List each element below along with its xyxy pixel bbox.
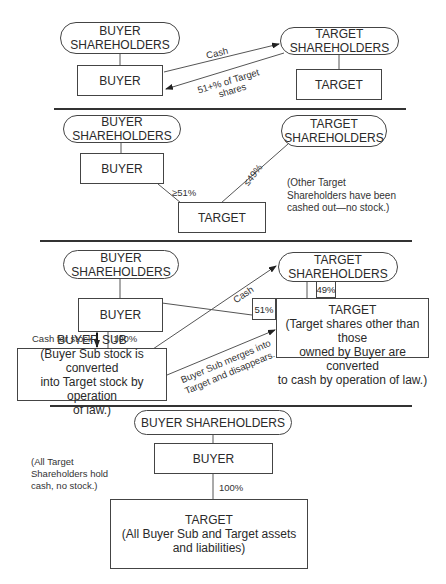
node-label: BUYER [99,74,140,88]
node-label: TARGET [198,211,246,225]
buyer-node: BUYER [77,65,163,96]
target-node: TARGET [296,69,382,100]
target-node: TARGET (All Buyer Sub and Target assets … [110,499,308,569]
node-label: TARGET [185,513,233,527]
node-label: BUYER [193,452,234,466]
node-label: SHAREHOLDERS [71,265,170,279]
panel-divider [50,405,412,407]
node-label: TARGET [329,303,377,317]
node-label: (Target shares other than those [277,317,428,345]
node-label: TARGET [314,253,362,267]
buyer-node: BUYER [78,298,163,332]
note-line: cash, no stock.) [31,480,108,492]
note-line: (All Target [31,456,108,468]
buyer-node: BUYER [80,153,164,184]
node-label: BUYER [99,24,140,38]
node-label: (All Buyer Sub and Target assets [122,527,297,541]
stake-label: 51% [254,304,273,315]
node-label: BUYER [100,251,141,265]
target-shareholders-stake-box: 49% [316,281,336,298]
node-label: BUYER [101,115,142,129]
buyer-shareholders-node: BUYER SHAREHOLDERS [60,22,180,54]
node-label: SHAREHOLDERS [290,41,389,55]
buyer-stake-box: 51% [252,298,276,320]
node-label: SHAREHOLDERS [72,129,171,143]
target-shareholders-node: TARGET SHAREHOLDERS [281,115,387,147]
buyer-stake-label: ≥51% [172,187,196,198]
node-label: (Buyer Sub stock is converted [18,347,166,375]
node-label: and liabilities) [173,541,246,555]
node-label: TARGET [316,27,364,41]
target-node: TARGET (Target shares other than those o… [276,298,429,358]
node-label: TARGET [315,78,363,92]
note-line: Shareholders hold [31,468,108,480]
ownership-label: 100% [219,482,243,493]
buyer-shareholders-node: BUYER SHAREHOLDERS [63,250,179,279]
node-label: SHAREHOLDERS [288,267,387,281]
note-line: (Other Target [287,177,396,190]
buyer-node: BUYER [154,443,273,474]
target-node: TARGET [178,202,266,233]
buyer-sub-node: BUYER SUB (Buyer Sub stock is converted … [17,348,167,401]
node-label: into Target stock by operation [18,375,166,403]
note-line: Shareholders have been [287,190,396,203]
node-label: BUYER [101,162,142,176]
buyer-shareholders-node: BUYER SHAREHOLDERS [134,410,292,435]
node-label: to cash by operation of law.) [278,373,427,387]
cashed-out-note: (Other Target Shareholders have been cas… [287,177,396,215]
target-shareholders-node: TARGET SHAREHOLDERS [280,27,399,55]
all-cash-note: (All Target Shareholders hold cash, no s… [31,456,108,492]
panel-divider [40,240,412,242]
note-line: cashed out—no stock.) [287,202,396,215]
node-label: SHAREHOLDERS [70,38,169,52]
target-shareholders-node: TARGET SHAREHOLDERS [278,252,398,282]
stake-label: 49% [317,284,336,295]
node-label: SHAREHOLDERS [284,131,383,145]
node-label: owned by Buyer are converted [277,345,428,373]
buyer-shareholders-node: BUYER SHAREHOLDERS [63,115,181,143]
panel-divider [54,108,406,110]
node-label: TARGET [310,117,358,131]
node-label: BUYER [100,308,141,322]
sub-ownership-label: 100% [113,333,137,344]
cash-for-stock-label: Cash for stock [32,333,93,344]
node-label: BUYER SHAREHOLDERS [141,416,285,430]
